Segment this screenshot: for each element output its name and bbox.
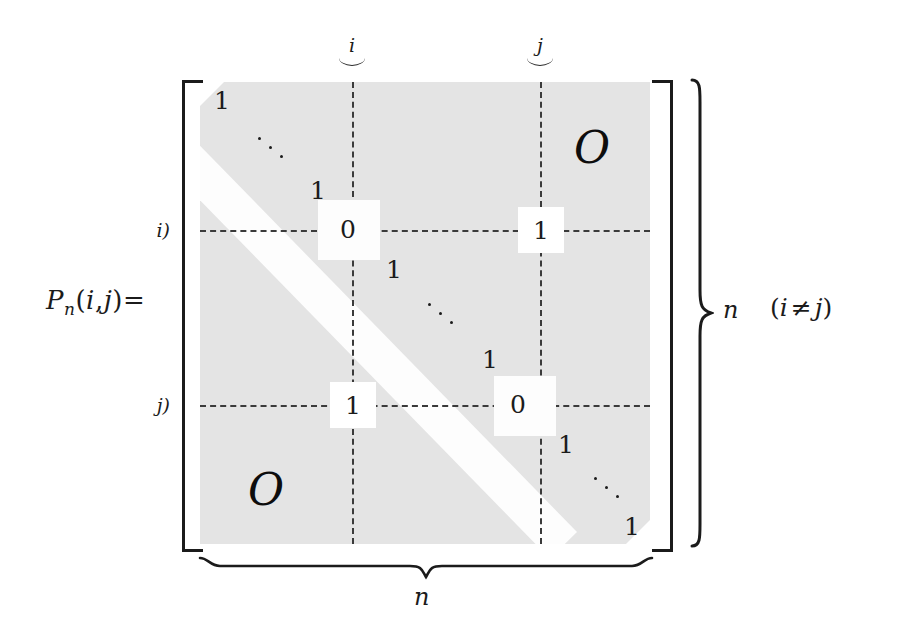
right-brace-label: n [723, 296, 738, 324]
diagonal-entry-zero-at-i: 0 [340, 217, 356, 242]
diagonal-dots-middle [426, 300, 460, 330]
equals-sign: = [123, 285, 145, 315]
column-underbrace-j [527, 56, 553, 66]
condition-left-symbol: i [780, 293, 788, 322]
diagonal-entry-one-after-i: 1 [386, 257, 402, 282]
bottom-brace-label: n [414, 583, 429, 611]
arg-comma: , [95, 285, 104, 315]
dashed-guide-row-j [200, 405, 650, 407]
column-label-i: i [332, 34, 372, 56]
formula-left-hand-side: Pn(i,j)= [46, 285, 186, 329]
arg-i: i [86, 285, 95, 315]
diagonal-entry-one-before-i: 1 [310, 178, 326, 203]
right-brace [688, 78, 714, 548]
highlighted-entry-j-i: 1 [330, 382, 376, 428]
condition-paren-close: ) [822, 293, 832, 322]
figure-canvas: Pn(i,j)= i) j) i j 1 1 0 1 1 0 [0, 0, 901, 622]
diagonal-entry-one-after-j: 1 [558, 432, 574, 457]
zero-block-upper-right: O [574, 122, 610, 173]
column-underbrace-i [339, 56, 365, 66]
row-label-i: i) [130, 219, 170, 241]
not-equal-icon: ≠ [788, 293, 815, 322]
condition-paren-open: ( [770, 293, 780, 322]
column-label-j: j [520, 34, 560, 56]
condition-note: (i≠j) [770, 293, 832, 322]
paren-open: ( [75, 285, 86, 315]
diagonal-entry-zero-at-j: 0 [510, 392, 526, 417]
arg-j: j [104, 285, 113, 315]
diagonal-dots-upper [256, 134, 290, 164]
diagonal-entry-top-left-one: 1 [214, 88, 230, 113]
dashed-guide-column-i [352, 82, 354, 544]
zero-block-lower-left: O [248, 464, 284, 515]
paren-close: ) [112, 285, 123, 315]
diagonal-entry-bottom-right-one: 1 [624, 514, 640, 539]
row-label-j: j) [130, 394, 170, 416]
matrix-symbol-P: P [46, 285, 64, 315]
diagonal-entry-one-before-j: 1 [482, 347, 498, 372]
matrix-body: 1 1 0 1 1 0 1 1 1 1 O O [200, 82, 650, 544]
diagonal-dots-lower [592, 474, 626, 504]
matrix-bracket-left [182, 80, 203, 552]
matrix-subscript-n: n [64, 299, 75, 319]
dashed-guide-row-i [200, 230, 650, 232]
matrix-bracket-right [652, 80, 673, 552]
dashed-guide-column-j [540, 82, 542, 544]
bottom-brace [198, 556, 654, 580]
highlighted-entry-i-j: 1 [518, 207, 564, 253]
